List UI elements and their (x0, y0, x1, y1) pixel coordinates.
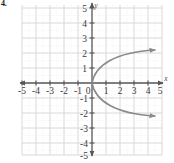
y-tick-labels: 5 4 3 2 1 -1 -2 -3 -4 -5 (80, 4, 88, 161)
y-tick-label: 3 (82, 34, 87, 44)
y-tick-label: -2 (80, 109, 88, 119)
x-tick-label: 2 (118, 86, 123, 96)
x-tick-label: 5 (158, 86, 163, 96)
problem-number-label: 4. (1, 0, 6, 9)
y-tick-label: -1 (80, 94, 88, 104)
y-tick-label: -5 (80, 151, 88, 161)
graph-canvas: -5 -4 -3 -2 -1 0 1 2 3 4 5 5 4 3 2 1 -1 … (0, 0, 174, 163)
x-tick-label: -2 (60, 86, 68, 96)
x-tick-label: -5 (18, 86, 26, 96)
x-tick-label: -4 (32, 86, 40, 96)
x-tick-label: -3 (46, 86, 54, 96)
x-axis-name-label: x (163, 74, 168, 83)
y-tick-label: 2 (82, 49, 87, 59)
y-tick-label: 5 (82, 4, 87, 14)
y-axis-name-label: y (93, 1, 98, 10)
y-tick-label: -4 (80, 139, 88, 149)
y-tick-label: 4 (82, 19, 87, 29)
x-tick-label: 4 (146, 86, 151, 96)
coordinate-plane-figure: 4. (0, 0, 174, 163)
y-tick-label: 1 (82, 64, 87, 74)
y-tick-label: -3 (80, 124, 88, 134)
x-tick-label: 3 (132, 86, 137, 96)
parabola-upper-branch (92, 50, 155, 83)
x-tick-label: 1 (104, 86, 109, 96)
